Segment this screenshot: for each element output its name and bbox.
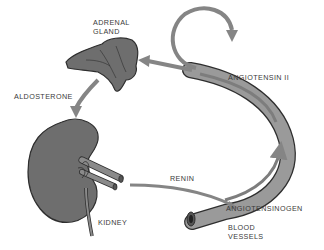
adrenal-gland-label: ADRENAL GLAND: [93, 18, 130, 36]
adrenal-gland: [66, 38, 138, 91]
angiotensin-ii-label: ANGIOTENSIN II: [228, 73, 289, 82]
loop-arrow: [173, 8, 232, 68]
renin-label: RENIN: [170, 174, 194, 183]
angiotensinogen-label: ANGIOTENSINOGEN: [226, 204, 303, 213]
blood-vessel: [187, 70, 288, 226]
aldosterone-arrow: [76, 80, 98, 108]
renin-arrow: [130, 185, 232, 205]
blood-vessels-label: BLOOD VESSELS: [228, 223, 264, 241]
kidney-label: KIDNEY: [98, 218, 127, 227]
aldosterone-label: ALDOSTERONE: [14, 92, 73, 101]
